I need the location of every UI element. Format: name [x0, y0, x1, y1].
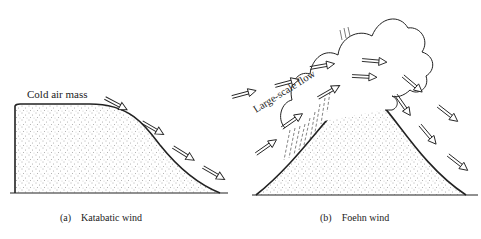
caption-a: (a) Katabatic wind: [60, 212, 142, 224]
diagram-canvas: Cold air mass (a) Katabatic wind: [0, 0, 481, 239]
cold-air-mass: [15, 104, 220, 193]
caption-b: (b) Foehn wind: [320, 212, 389, 224]
cold-air-mass-label: Cold air mass: [27, 88, 88, 100]
foehn-panel: Large-scale flow (b) Foehn wind: [231, 19, 478, 224]
katabatic-panel: Cold air mass (a) Katabatic wind: [10, 88, 228, 224]
